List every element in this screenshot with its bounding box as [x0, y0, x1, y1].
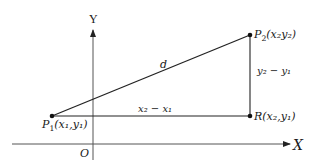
origin-label: O — [80, 148, 89, 159]
hypotenuse-label: d — [160, 59, 167, 70]
x-axis-label: X — [293, 138, 303, 152]
r-label: R(x₂,y₁) — [254, 111, 296, 122]
vertical-label: y₂ − y₁ — [257, 66, 291, 76]
y-axis-label: Y — [89, 13, 98, 25]
distance-diagram — [0, 0, 312, 167]
p1-label: P1(x₁,y₁) — [42, 119, 88, 133]
p2-label: P2(x₂y₂) — [254, 29, 296, 43]
horizontal-label: x₂ − x₁ — [138, 104, 172, 114]
point-r — [248, 114, 253, 119]
point-p2 — [248, 33, 253, 38]
